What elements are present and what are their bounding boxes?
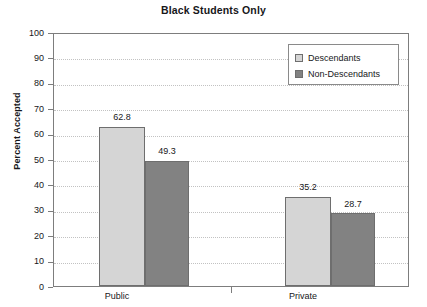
bar-value-public-non-descendants: 49.3 — [137, 147, 197, 156]
bar-private-descendants — [285, 197, 331, 286]
legend-swatch-icon — [295, 54, 303, 62]
x-category-label-private: Private — [273, 291, 333, 302]
legend-swatch-icon — [295, 70, 303, 78]
x-category-label-public: Public — [87, 291, 147, 302]
y-tick-label: 50 — [0, 156, 44, 165]
legend-item-descendants: Descendants — [295, 51, 361, 65]
y-tick-label: 20 — [0, 232, 44, 241]
y-tick-mark — [48, 287, 53, 288]
y-tick-label: 10 — [0, 257, 44, 266]
y-tick-label: 0 — [0, 283, 44, 292]
bar-value-public-descendants: 62.8 — [92, 113, 152, 122]
bar-value-private-descendants: 35.2 — [278, 183, 338, 192]
y-tick-label: 60 — [0, 130, 44, 139]
y-tick-label: 100 — [0, 29, 44, 38]
legend-item-non-descendants: Non-Descendants — [295, 67, 380, 81]
y-tick-label: 90 — [0, 54, 44, 63]
bar-public-non-descendants — [145, 161, 189, 286]
bar-chart: Black Students Only Percent Accepted 100… — [0, 0, 427, 307]
y-tick-label: 30 — [0, 206, 44, 215]
chart-title: Black Students Only — [0, 4, 427, 16]
gridline — [54, 110, 408, 111]
bar-value-private-non-descendants: 28.7 — [323, 200, 383, 209]
legend-label: Non-Descendants — [308, 69, 380, 79]
bar-private-non-descendants — [331, 213, 375, 286]
y-tick-label: 40 — [0, 181, 44, 190]
x-tick-mark — [231, 287, 232, 293]
y-tick-label: 70 — [0, 105, 44, 114]
y-tick-label: 80 — [0, 79, 44, 88]
legend-label: Descendants — [308, 53, 361, 63]
chart-legend: Descendants Non-Descendants — [288, 44, 399, 85]
